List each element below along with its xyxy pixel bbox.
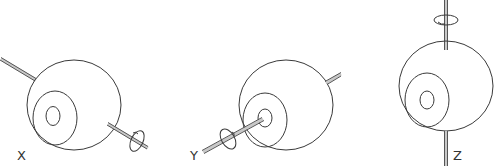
panel-y: Y bbox=[189, 60, 341, 163]
axis-label-z: Z bbox=[453, 148, 462, 163]
pupil bbox=[46, 107, 60, 126]
panel-x: X bbox=[0, 58, 148, 164]
iris bbox=[33, 91, 77, 145]
y-axis-rod-upper bbox=[325, 73, 341, 85]
z-axis-rod-lower bbox=[445, 131, 448, 166]
axis-label-y: Y bbox=[189, 148, 198, 163]
axis-label-x: X bbox=[17, 148, 26, 163]
panel-z: Z bbox=[399, 0, 493, 166]
x-axis-rod-upper bbox=[0, 58, 36, 82]
pupil bbox=[420, 91, 434, 109]
eyeball bbox=[239, 60, 333, 150]
iris bbox=[243, 93, 287, 147]
iris bbox=[405, 73, 449, 127]
eye-rotation-diagram: X Y bbox=[0, 0, 496, 166]
